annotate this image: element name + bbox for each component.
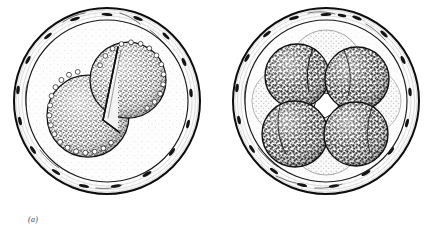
panel-a-drawing <box>0 0 214 210</box>
panel-a-two-cell-stage: (a) <box>0 0 214 210</box>
blastomere-b-3 <box>262 101 328 167</box>
panel-b-drawing <box>220 0 434 210</box>
figure-container: (a) <box>0 0 434 230</box>
blastomere-b-4 <box>324 102 388 166</box>
blastomere-b-1 <box>265 44 329 108</box>
panel-a-caption: (a) <box>28 215 38 224</box>
panel-b-multicell-stage: (b) <box>220 0 434 210</box>
